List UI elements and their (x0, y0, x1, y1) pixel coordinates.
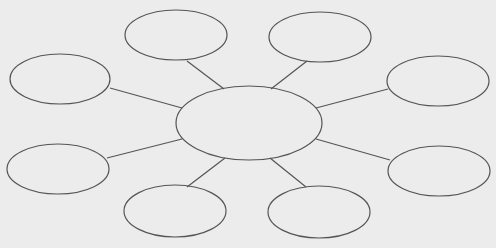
bubble-map-diagram (0, 0, 496, 248)
diagram-canvas (0, 0, 496, 248)
background (0, 0, 496, 248)
